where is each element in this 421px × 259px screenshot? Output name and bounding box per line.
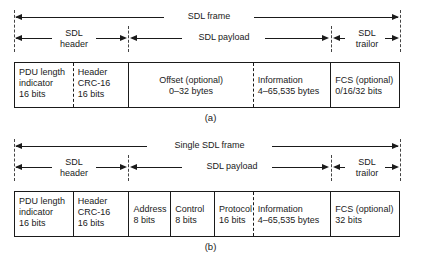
- field-pdu-length-indicator: PDU length indicator 16 bits: [15, 192, 73, 236]
- frame-fields-a: PDU length indicator 16 bits Header CRC-…: [14, 62, 400, 108]
- sdl-header-line-right: [92, 167, 121, 168]
- sdl-trailor-arrow-left: [333, 164, 340, 170]
- field-address: Address 8 bits: [128, 192, 170, 236]
- single-sdl-frame-line-right: [268, 146, 398, 147]
- tick-header-end: [128, 26, 129, 52]
- field-information: Information 4–65,535 bytes: [253, 192, 331, 236]
- sdl-header-arrow-right: [120, 35, 127, 41]
- sdl-frame-line-right: [250, 17, 398, 18]
- field-information: Information 4–65,535 bytes: [253, 63, 331, 107]
- field-protocol: Protocol 16 bits: [214, 192, 253, 236]
- sdl-trailor-arrow-right: [392, 164, 399, 170]
- dim-label-sdl-payload: SDL payload: [190, 161, 274, 172]
- sdl-trailor-arrow-left: [333, 35, 340, 41]
- sdl-frame-diagram-b: Single SDL frame SDL header SDL payload …: [0, 129, 421, 259]
- sdl-payload-line-left: [137, 167, 182, 168]
- sdl-header-arrow-left: [15, 35, 22, 41]
- tick-frame-end: [400, 10, 401, 52]
- sdl-payload-arrow-right: [322, 164, 329, 170]
- field-control: Control 8 bits: [170, 192, 214, 236]
- dim-label-single-sdl-frame: Single SDL frame: [147, 140, 272, 151]
- sdl-header-line-right: [92, 38, 121, 39]
- figure-caption-b: (b): [0, 241, 421, 252]
- sdl-payload-arrow-right: [322, 35, 329, 41]
- sdl-header-arrow-left: [15, 164, 22, 170]
- field-pdu-length-indicator: PDU length indicator 16 bits: [15, 63, 73, 107]
- sdl-frame-arrow-right: [392, 14, 399, 20]
- sdl-payload-line-right: [265, 38, 323, 39]
- dim-label-sdl-trailor: SDL trailor: [345, 28, 389, 49]
- dimension-annotations-a: SDL frame SDL header SDL payload SDL tra…: [0, 0, 421, 52]
- figure-caption-a: (a): [0, 112, 421, 123]
- field-header-crc-16: Header CRC-16 16 bits: [73, 192, 129, 236]
- single-sdl-frame-arrow-left: [15, 143, 22, 149]
- tick-payload-end: [331, 26, 332, 52]
- dimension-annotations-b: Single SDL frame SDL header SDL payload …: [0, 129, 421, 181]
- sdl-payload-line-left: [137, 38, 182, 39]
- sdl-trailor-arrow-right: [392, 35, 399, 41]
- dim-label-sdl-header: SDL header: [52, 157, 96, 178]
- tick-payload-end: [331, 155, 332, 181]
- field-fcs-optional: FCS (optional) 32 bits: [330, 192, 399, 236]
- dim-label-sdl-header: SDL header: [52, 28, 96, 49]
- single-sdl-frame-arrow-right: [392, 143, 399, 149]
- sdl-payload-line-right: [272, 167, 323, 168]
- frame-fields-b: PDU length indicator 16 bits Header CRC-…: [14, 191, 400, 237]
- sdl-payload-arrow-left: [130, 164, 137, 170]
- dim-label-sdl-trailor: SDL trailor: [345, 157, 389, 178]
- dim-label-sdl-frame: SDL frame: [164, 11, 254, 22]
- sdl-header-arrow-right: [120, 164, 127, 170]
- sdl-payload-arrow-left: [130, 35, 137, 41]
- dim-label-sdl-payload: SDL payload: [182, 32, 266, 43]
- field-header-crc-16: Header CRC-16 16 bits: [73, 63, 129, 107]
- tick-frame-end: [400, 139, 401, 181]
- tick-header-end: [128, 155, 129, 181]
- sdl-frame-line-left: [16, 17, 164, 18]
- sdl-frame-diagram-a: SDL frame SDL header SDL payload SDL tra…: [0, 0, 421, 129]
- single-sdl-frame-line-left: [16, 146, 147, 147]
- sdl-frame-arrow-left: [15, 14, 22, 20]
- field-fcs-optional: FCS (optional) 0/16/32 bits: [330, 63, 399, 107]
- field-offset-optional: Offset (optional) 0–32 bytes: [128, 63, 252, 107]
